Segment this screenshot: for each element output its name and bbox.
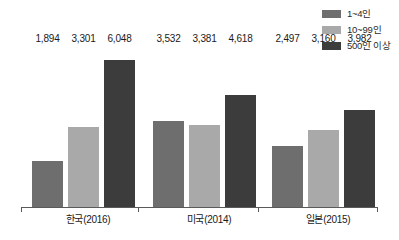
axis-tick-end [377, 207, 378, 212]
bar-wrap[interactable]: 6,048 [104, 47, 135, 207]
group-label-usa: 미국(2014) [187, 214, 232, 226]
bar-rect[interactable] [272, 146, 303, 207]
bar-value-label: 6,048 [107, 33, 131, 44]
bar-group-usa: 3,532 3,381 4,618 [153, 47, 256, 207]
plot-area: 1,894 3,301 6,048 한국(2016) 3,532 3,381 [0, 0, 399, 240]
bar-value-label: 1,894 [35, 33, 59, 44]
bar-wrap[interactable]: 3,301 [68, 47, 99, 207]
axis-tick-start [21, 207, 22, 212]
bar-rect[interactable] [225, 95, 256, 207]
bar-value-label: 3,160 [311, 33, 335, 44]
bar-rect[interactable] [153, 121, 184, 207]
x-axis-line [21, 207, 378, 208]
bar-value-label: 3,982 [347, 33, 371, 44]
bar-group-japan: 2,497 3,160 3,982 [272, 47, 375, 207]
group-label-korea: 한국(2016) [66, 214, 111, 226]
bar-wrap[interactable]: 3,381 [189, 47, 220, 207]
bar-rect[interactable] [68, 127, 99, 207]
bar-chart: 1~4인 10~99인 500인 이상 1,894 3,301 [0, 0, 399, 240]
bar-wrap[interactable]: 3,982 [344, 47, 375, 207]
bar-rect[interactable] [189, 125, 220, 207]
group-label-japan: 일본(2015) [306, 214, 351, 226]
bar-wrap[interactable]: 3,160 [308, 47, 339, 207]
axis-tick-divider-2 [258, 207, 259, 212]
bar-rect[interactable] [32, 161, 63, 207]
axis-tick-divider-1 [138, 207, 139, 212]
bar-value-label: 3,301 [71, 33, 95, 44]
bar-wrap[interactable]: 2,497 [272, 47, 303, 207]
bar-wrap[interactable]: 4,618 [225, 47, 256, 207]
bar-value-label: 3,381 [192, 33, 216, 44]
bar-rect[interactable] [344, 110, 375, 207]
bar-group-korea: 1,894 3,301 6,048 [32, 47, 135, 207]
bar-rect[interactable] [104, 60, 135, 207]
bar-wrap[interactable]: 1,894 [32, 47, 63, 207]
bar-value-label: 3,532 [156, 33, 180, 44]
bar-rect[interactable] [308, 130, 339, 207]
bar-value-label: 4,618 [228, 33, 252, 44]
bar-value-label: 2,497 [275, 33, 299, 44]
bar-wrap[interactable]: 3,532 [153, 47, 184, 207]
